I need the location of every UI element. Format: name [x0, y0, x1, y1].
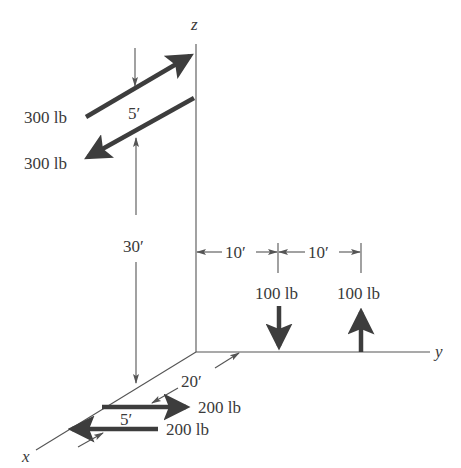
dimension-arrow-5ft-lower — [78, 433, 103, 447]
force-label-100lb-right: 100 lb — [337, 284, 380, 303]
statics-couple-diagram: z y x 300 lb 300 lb 5′ 30′ 10′ 10′ 100 l… — [0, 0, 461, 468]
force-label-100lb-left: 100 lb — [255, 284, 298, 303]
force-label-300lb-bottom: 300 lb — [24, 154, 67, 173]
dimension-arrow-20ft-lower — [152, 388, 178, 403]
z-axis-label: z — [190, 15, 198, 34]
dimension-label-30ft: 30′ — [123, 237, 144, 256]
force-label-200lb-bottom: 200 lb — [166, 420, 209, 439]
dimension-arrow-20ft-upper — [215, 353, 239, 368]
dimension-label-5ft-upper: 5′ — [128, 104, 140, 123]
lower-couple: 20′ 200 lb 200 lb 5′ — [72, 353, 241, 447]
dimension-label-10ft-1: 10′ — [225, 243, 246, 262]
y-axis-label: y — [433, 342, 443, 361]
force-label-300lb-top: 300 lb — [24, 108, 67, 127]
dimension-label-5ft-lower: 5′ — [120, 410, 132, 429]
x-axis-label: x — [21, 447, 30, 466]
force-label-200lb-top: 200 lb — [198, 398, 241, 417]
dimension-label-20ft: 20′ — [181, 372, 202, 391]
dimension-label-10ft-2: 10′ — [308, 243, 329, 262]
vertical-couple: 10′ 10′ 100 lb 100 lb — [197, 243, 380, 352]
upper-couple: 300 lb 300 lb 5′ 30′ — [24, 48, 194, 383]
